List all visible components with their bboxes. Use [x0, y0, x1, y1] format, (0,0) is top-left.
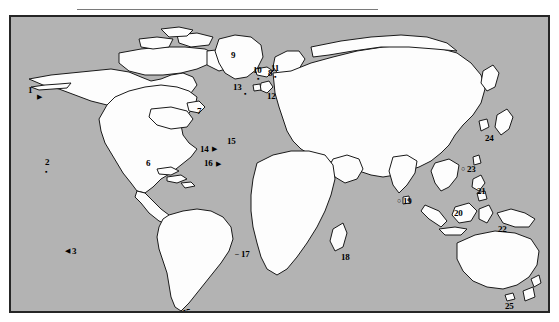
- map-label-marker-arrow-right-icon: ▶: [37, 93, 42, 100]
- map-label: 14: [200, 145, 209, 154]
- landmass-tasmania: [505, 293, 515, 301]
- map-label: 18: [341, 253, 350, 262]
- landmass-korea: [479, 119, 489, 131]
- map-label: 22: [498, 225, 507, 234]
- map-label: 20: [454, 209, 463, 218]
- map-label: 9: [231, 51, 235, 60]
- landmass-new-zealand-n: [531, 275, 541, 287]
- landmass-canada-north: [119, 47, 217, 75]
- landmass-africa: [251, 151, 335, 275]
- landmass-canada-arctic-c: [161, 27, 193, 37]
- landmass-caribbean-c: [181, 182, 195, 188]
- map-label: 21: [477, 187, 486, 196]
- figure-page: 1 2 3 4 5 6 7 8 9 10 11 12 13 14 15 16 1…: [0, 0, 559, 322]
- map-label: 6: [146, 159, 150, 168]
- map-label: 7: [197, 107, 201, 116]
- landmass-kamchatka: [481, 65, 499, 91]
- landmass-sulawesi: [479, 205, 493, 223]
- landmass-java: [439, 227, 467, 235]
- map-label-marker-dot-icon: ▪: [257, 75, 259, 82]
- map-label-marker-circle-icon: ○: [461, 165, 465, 172]
- map-label: 17: [241, 250, 250, 259]
- map-label-marker-arrow-right-icon: ▶: [212, 145, 217, 152]
- map-label: 10: [253, 66, 262, 75]
- landmass-indochina: [431, 159, 459, 191]
- map-label-marker-dot-icon: ▪: [45, 168, 47, 175]
- map-label: 24: [485, 134, 494, 143]
- landmass-sumatra: [421, 205, 447, 227]
- landmass-south-america: [157, 209, 233, 311]
- map-label: 3: [72, 247, 76, 256]
- map-label: 19: [403, 197, 412, 206]
- map-label-marker-arrow-left-icon: ◀: [65, 247, 70, 254]
- map-label-marker-dot-icon: ▪: [274, 73, 276, 80]
- landmass-caribbean-b: [167, 175, 187, 183]
- map-label: 2: [45, 158, 49, 167]
- map-label: 15: [227, 137, 236, 146]
- map-label: 11: [271, 64, 279, 73]
- map-label-marker-arrow-right-icon: ▶: [216, 160, 221, 167]
- map-label-marker-circle-icon: ○: [397, 197, 401, 204]
- landmass-ireland: [253, 84, 261, 91]
- landmass-india: [389, 155, 417, 193]
- world-map-frame: 1 2 3 4 5 6 7 8 9 10 11 12 13 14 15 16 1…: [9, 15, 550, 313]
- top-horizontal-rule: [77, 9, 378, 10]
- map-label: 1: [28, 86, 32, 95]
- landmass-madagascar: [330, 223, 347, 251]
- map-label-marker-arrow-left-icon: ◀: [180, 308, 185, 313]
- map-label: 13: [233, 83, 242, 92]
- map-label: 16: [204, 159, 213, 168]
- landmass-new-zealand-s: [523, 287, 535, 301]
- map-label: 23: [467, 165, 476, 174]
- landmass-japan: [495, 109, 513, 135]
- landmass-canada-arctic-a: [139, 37, 173, 49]
- map-label: 5: [186, 308, 190, 313]
- map-label-marker-dot-icon: ▪: [244, 90, 246, 97]
- landmass-australia: [457, 231, 539, 289]
- map-label-marker-dash-left-icon: –: [235, 250, 239, 257]
- landmass-newfoundland: [187, 101, 205, 113]
- map-label: 12: [267, 92, 276, 101]
- map-label: 25: [505, 302, 514, 311]
